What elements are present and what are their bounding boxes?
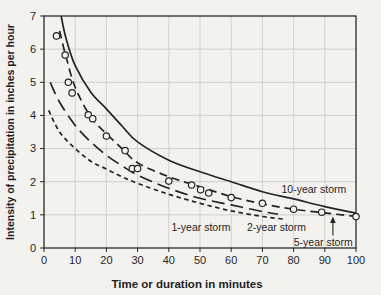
data-point: [134, 165, 140, 171]
data-point: [62, 52, 68, 58]
data-point: [90, 116, 96, 122]
y-tick-label: 2: [30, 176, 36, 188]
y-tick-label: 7: [30, 10, 36, 22]
data-point: [259, 200, 265, 206]
plot-area: 01020304050607080901000123456710-year st…: [30, 10, 365, 266]
data-point: [69, 90, 75, 96]
data-point: [166, 178, 172, 184]
annotation-label: 10-year storm: [281, 183, 346, 195]
x-tick-label: 20: [100, 254, 112, 266]
x-axis-title: Time or duration in minutes: [111, 278, 262, 290]
data-point: [206, 190, 212, 196]
annotation-label: 2-year storm: [247, 221, 306, 233]
annotation-label: 1-year storm: [171, 221, 230, 233]
annotation-arrowhead: [330, 217, 336, 224]
x-tick-label: 80: [287, 254, 299, 266]
y-tick-label: 0: [30, 242, 36, 254]
annotation-label: 5-year storm: [294, 236, 353, 248]
x-tick-label: 30: [131, 254, 143, 266]
data-point: [53, 33, 59, 39]
y-tick-label: 6: [30, 43, 36, 55]
data-point: [122, 147, 128, 153]
idf-rainfall-chart: 01020304050607080901000123456710-year st…: [0, 0, 381, 295]
data-point: [228, 194, 234, 200]
gridlines: [44, 16, 356, 248]
data-point: [65, 79, 71, 85]
curve-1-year-storm: [49, 110, 285, 219]
x-tick-label: 100: [347, 254, 365, 266]
y-tick-label: 1: [30, 209, 36, 221]
data-point: [319, 209, 325, 215]
y-tick-label: 3: [30, 142, 36, 154]
x-tick-label: 70: [256, 254, 268, 266]
x-tick-label: 10: [69, 254, 81, 266]
y-axis-title: Intensity of precipitation in inches per…: [4, 24, 16, 240]
data-point: [290, 206, 296, 212]
x-tick-label: 40: [163, 254, 175, 266]
data-point: [353, 213, 359, 219]
data-point: [188, 182, 194, 188]
data-point: [197, 187, 203, 193]
x-tick-label: 0: [41, 254, 47, 266]
y-tick-label: 4: [30, 109, 36, 121]
chart-svg: 01020304050607080901000123456710-year st…: [0, 0, 381, 295]
x-tick-label: 90: [319, 254, 331, 266]
x-tick-label: 60: [225, 254, 237, 266]
data-point: [103, 133, 109, 139]
y-tick-label: 5: [30, 76, 36, 88]
x-tick-label: 50: [194, 254, 206, 266]
